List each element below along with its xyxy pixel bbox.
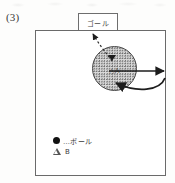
goal-label: ゴール — [79, 14, 117, 31]
figure-page: (3) ゴール △A — [0, 0, 175, 183]
legend-item-b: B — [53, 146, 92, 157]
dashed-arrow-to-goal — [93, 34, 112, 61]
goal-area-box: ゴール — [78, 13, 118, 31]
playing-field: △A …ボール B — [35, 30, 166, 176]
legend-item-label: …ボール — [63, 136, 92, 146]
figure-number-label: (3) — [6, 11, 19, 23]
curved-arrow-turn — [116, 78, 165, 89]
legend-item-ball: …ボール — [53, 135, 92, 146]
legend-item-label: B — [65, 148, 70, 156]
open-triangle-icon — [53, 148, 61, 155]
filled-circle-icon — [53, 137, 60, 144]
legend: …ボール B — [53, 135, 92, 157]
scan-noise-artifact — [0, 0, 175, 10]
